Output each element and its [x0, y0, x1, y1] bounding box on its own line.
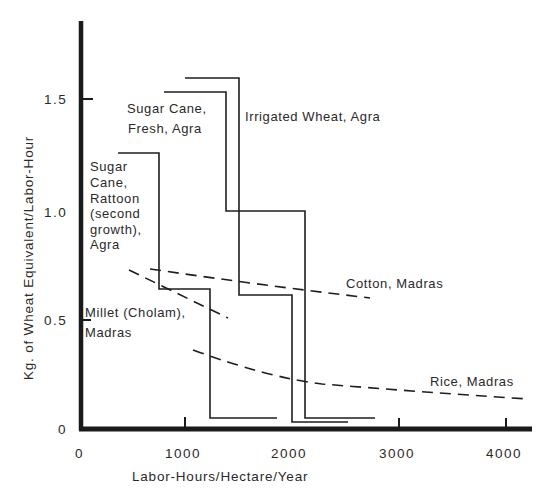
label-millet: Millet (Cholam),: [85, 305, 186, 320]
y-tick-label: 0.5: [44, 313, 67, 328]
x-tick-label: 3000: [379, 446, 415, 461]
x-tick-label: 1000: [165, 446, 201, 461]
y-axis-label: Kg. of Wheat Equivalent/Labor-Hour: [21, 136, 36, 380]
x-axis-label: Labor-Hours/Hectare/Year: [132, 469, 308, 484]
series-sugar-cane-fresh: [164, 92, 375, 418]
x-tick-labels: 0 1000 2000 3000 4000: [75, 446, 522, 461]
series-sugar-cane-rattoon: [118, 153, 277, 418]
label-sugar-cane-rattoon: Rattoon: [90, 191, 140, 206]
y-tick-label: 1.5: [44, 92, 67, 107]
label-sugar-cane-rattoon: Agra: [90, 237, 120, 252]
label-cotton: Cotton, Madras: [346, 276, 443, 291]
label-sugar-cane-rattoon: (second: [90, 206, 140, 221]
x-tick-label: 2000: [271, 446, 307, 461]
label-millet: Madras: [85, 325, 132, 340]
x-tick-label: 4000: [486, 446, 522, 461]
y-tick-labels: 1.5 1.0 0.5 0: [44, 92, 67, 437]
y-tick-label: 1.0: [44, 205, 67, 220]
label-sugar-cane-rattoon: Sugar: [90, 159, 128, 174]
label-rice: Rice, Madras: [430, 374, 514, 389]
x-tick-label: 0: [75, 446, 84, 461]
series-cotton: [150, 269, 370, 298]
y-tick-label: 0: [58, 422, 67, 437]
label-sugar-cane-rattoon: Cane,: [90, 175, 128, 190]
label-irrigated-wheat: Irrigated Wheat, Agra: [245, 109, 381, 124]
series-labels: Irrigated Wheat, Agra Sugar Cane, Fresh,…: [85, 101, 514, 389]
label-sugar-cane-fresh: Fresh, Agra: [128, 121, 202, 136]
chart: 1.5 1.0 0.5 0 0 1000 2000 3000 4000 Labo…: [0, 0, 552, 494]
label-sugar-cane-fresh: Sugar Cane,: [127, 101, 207, 116]
label-sugar-cane-rattoon: growth),: [90, 222, 142, 237]
